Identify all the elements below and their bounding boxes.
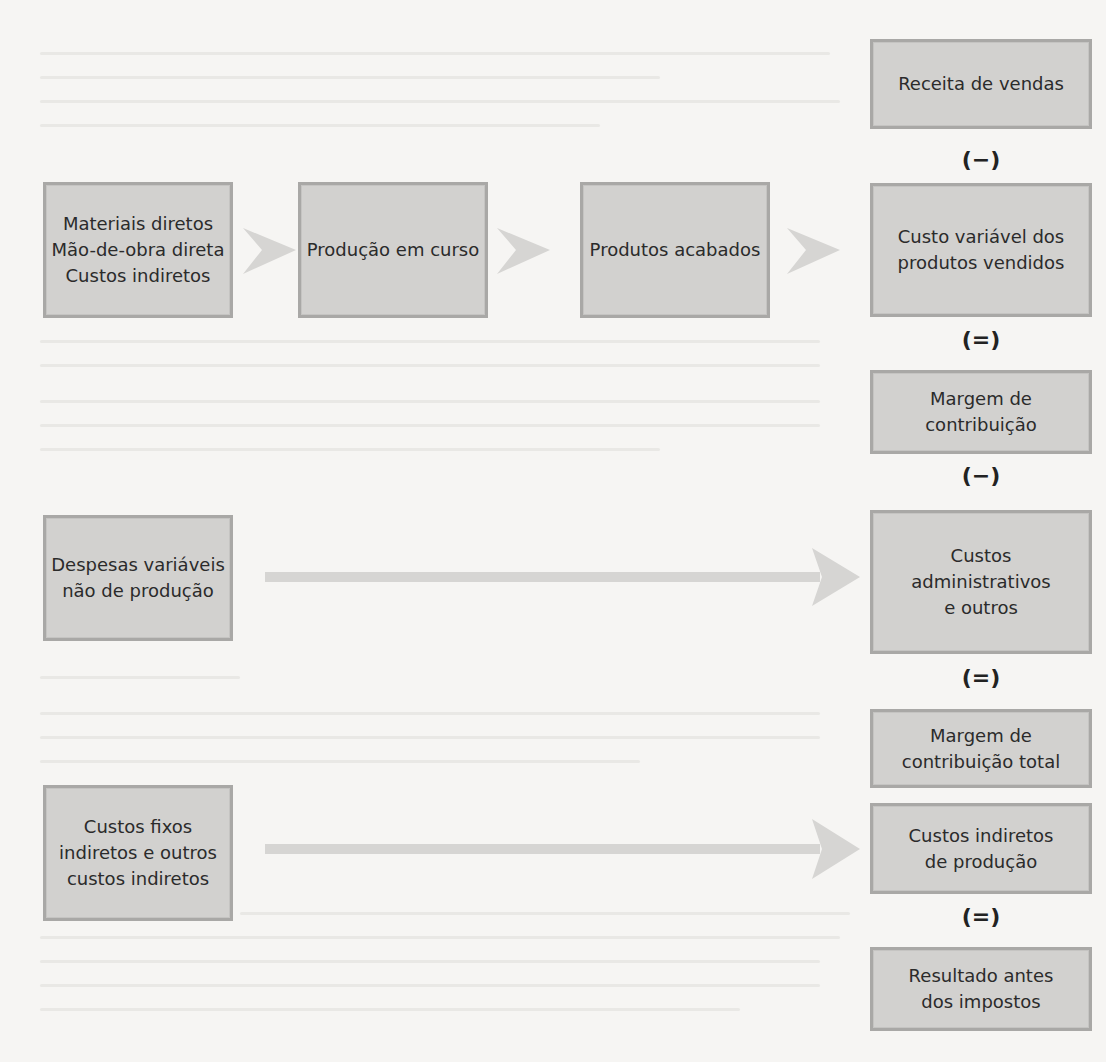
label-line: de produção [909, 849, 1054, 875]
label-line: Custos [911, 543, 1050, 569]
label-line: Custos indiretos [909, 823, 1054, 849]
box-contribution-margin: Margem de contribuição [870, 370, 1092, 454]
operator-equals: (=) [951, 327, 1011, 352]
box-result-before-taxes: Resultado antes dos impostos [870, 947, 1092, 1031]
label-line: Custos fixos [59, 814, 217, 840]
box-variable-cogs: Custo variável dos produtos vendidos [870, 183, 1092, 317]
label-overhead: Custos indiretos [52, 263, 225, 289]
operator-equals: (=) [951, 665, 1011, 690]
box-admin-costs: Custos administrativos e outros [870, 510, 1092, 654]
long-arrow-shaft [265, 844, 820, 854]
label-line: custos indiretos [59, 866, 217, 892]
label-direct-materials: Materiais diretos [52, 211, 225, 237]
chevron-arrow-icon [243, 228, 296, 274]
label-line: Resultado antes [909, 963, 1054, 989]
box-work-in-progress: Produção em curso [298, 182, 488, 318]
label-line: e outros [911, 595, 1050, 621]
box-inputs: Materiais diretos Mão-de-obra direta Cus… [43, 182, 233, 318]
label-line: contribuição total [902, 749, 1060, 775]
chevron-arrow-icon [497, 228, 550, 274]
box-fixed-costs: Custos fixos indiretos e outros custos i… [43, 785, 233, 921]
label-direct-labor: Mão-de-obra direta [52, 237, 225, 263]
label-line: dos impostos [909, 989, 1054, 1015]
label-line: Margem de [925, 386, 1037, 412]
label-line: Custo variável dos [898, 224, 1065, 250]
label-line: Margem de [902, 723, 1060, 749]
label-line: Despesas variáveis [51, 552, 225, 578]
box-variable-non-production-expenses: Despesas variáveis não de produção [43, 515, 233, 641]
label-line: indiretos e outros [59, 840, 217, 866]
label-line: não de produção [51, 578, 225, 604]
label-line: contribuição [925, 412, 1037, 438]
chevron-arrow-icon [787, 228, 840, 274]
box-finished-goods: Produtos acabados [580, 182, 770, 318]
label-line: administrativos [911, 569, 1050, 595]
box-indirect-production-costs: Custos indiretos de produção [870, 803, 1092, 894]
long-arrow-shaft [265, 572, 820, 582]
label-sales-revenue: Receita de vendas [898, 71, 1064, 97]
box-sales-revenue: Receita de vendas [870, 39, 1092, 129]
operator-equals: (=) [951, 904, 1011, 929]
box-total-contribution-margin: Margem de contribuição total [870, 709, 1092, 788]
label-finished-goods: Produtos acabados [590, 237, 761, 263]
label-work-in-progress: Produção em curso [307, 237, 479, 263]
label-line: produtos vendidos [898, 250, 1065, 276]
operator-minus: (−) [951, 147, 1011, 172]
operator-minus: (−) [951, 463, 1011, 488]
